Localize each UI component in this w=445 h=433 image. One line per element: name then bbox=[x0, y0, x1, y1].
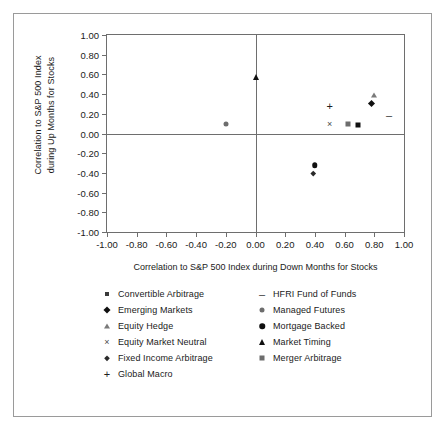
diamond-small-marker-icon bbox=[311, 171, 316, 176]
x-tick bbox=[256, 232, 257, 237]
y-axis-title-line-1: Correlation to S&P 500 Index bbox=[32, 20, 45, 210]
y-tick bbox=[102, 134, 107, 135]
x-tick bbox=[315, 232, 316, 237]
x-tick-label: -0.20 bbox=[215, 239, 237, 250]
y-tick-label: 1.00 bbox=[81, 30, 100, 41]
y-tick-label: 0.00 bbox=[81, 128, 100, 139]
circle-black-legend-icon bbox=[255, 319, 269, 333]
y-tick-label: -1.00 bbox=[77, 227, 99, 238]
x-tick-label: 0.60 bbox=[335, 239, 354, 250]
square-small-legend-icon bbox=[100, 287, 114, 301]
data-point bbox=[345, 121, 350, 126]
data-point bbox=[355, 122, 360, 127]
y-tick bbox=[102, 193, 107, 194]
data-point bbox=[313, 173, 317, 177]
y-tick-label: -0.80 bbox=[77, 207, 99, 218]
x-tick bbox=[374, 232, 375, 237]
data-point: × bbox=[327, 119, 332, 128]
x-tick bbox=[137, 232, 138, 237]
plot-area: 1.000.800.600.400.200.00-0.20-0.40-0.60-… bbox=[106, 34, 405, 233]
triangle-gray-marker-icon bbox=[371, 93, 377, 98]
legend-item: –HFRI Fund of Funds bbox=[255, 286, 356, 302]
y-tick-label: 0.40 bbox=[81, 89, 100, 100]
legend-item: ×Equity Market Neutral bbox=[100, 334, 213, 350]
x-tick-label: 0.80 bbox=[365, 239, 384, 250]
cross-marker-icon: × bbox=[327, 118, 332, 128]
legend-item: Equity Hedge bbox=[100, 318, 213, 334]
diamond-small-legend-icon bbox=[100, 351, 114, 365]
x-axis-title: Correlation to S&P 500 Index during Down… bbox=[106, 262, 405, 272]
x-tick-label: -1.00 bbox=[96, 239, 118, 250]
legend-item-label: Equity Hedge bbox=[118, 321, 173, 331]
legend-item-label: Fixed Income Arbitrage bbox=[118, 353, 213, 363]
legend-item: Convertible Arbitrage bbox=[100, 286, 213, 302]
x-tick bbox=[404, 232, 405, 237]
legend-item-label: Market Timing bbox=[273, 337, 331, 347]
horizontal-zero-axis bbox=[107, 134, 404, 135]
circle-gray-marker-icon bbox=[223, 121, 228, 126]
data-point bbox=[312, 162, 318, 168]
y-axis-title: Correlation to S&P 500 Index during Up M… bbox=[32, 20, 64, 210]
data-point bbox=[372, 103, 377, 108]
y-tick-label: 0.20 bbox=[81, 108, 100, 119]
x-tick-label: -0.60 bbox=[156, 239, 178, 250]
y-axis-title-line-2: during Up Months for Stocks bbox=[45, 20, 58, 210]
legend-column-right: –HFRI Fund of FundsManaged FuturesMortga… bbox=[255, 286, 356, 366]
circle-gray-legend-icon bbox=[255, 303, 269, 317]
triangle-gray-legend-icon bbox=[100, 319, 114, 333]
diamond-marker-icon bbox=[368, 100, 375, 107]
x-tick bbox=[166, 232, 167, 237]
legend-column-left: Convertible ArbitrageEmerging MarketsEqu… bbox=[100, 286, 213, 382]
data-point bbox=[371, 93, 377, 98]
y-tick-label: 0.60 bbox=[81, 69, 100, 80]
data-point: – bbox=[386, 109, 392, 120]
plus-marker-icon: + bbox=[327, 99, 333, 111]
x-tick-label: 0.40 bbox=[306, 239, 325, 250]
square-gray-marker-icon bbox=[345, 121, 350, 126]
diamond-legend-icon bbox=[100, 303, 114, 317]
legend-item: Mortgage Backed bbox=[255, 318, 356, 334]
y-tick bbox=[102, 153, 107, 154]
square-black-marker-icon bbox=[355, 122, 360, 127]
legend-item-label: Equity Market Neutral bbox=[118, 337, 207, 347]
cross-legend-icon: × bbox=[100, 335, 114, 349]
x-tick-label: 1.00 bbox=[395, 239, 414, 250]
y-tick bbox=[102, 114, 107, 115]
figure-panel: Correlation to S&P 500 Index during Up M… bbox=[13, 13, 432, 417]
legend-item-label: Merger Arbitrage bbox=[273, 353, 342, 363]
legend-item-label: Convertible Arbitrage bbox=[118, 289, 204, 299]
x-tick bbox=[345, 232, 346, 237]
chart-legend: Convertible ArbitrageEmerging MarketsEqu… bbox=[14, 286, 433, 406]
dash-legend-icon: – bbox=[255, 287, 269, 301]
scatter-chart: Correlation to S&P 500 Index during Up M… bbox=[14, 14, 433, 279]
legend-item-label: Emerging Markets bbox=[118, 305, 193, 315]
legend-item-label: HFRI Fund of Funds bbox=[273, 289, 356, 299]
legend-item-label: Managed Futures bbox=[273, 305, 345, 315]
x-tick-label: -0.40 bbox=[185, 239, 207, 250]
y-tick bbox=[102, 35, 107, 36]
y-tick-label: -0.40 bbox=[77, 167, 99, 178]
triangle-legend-icon bbox=[255, 335, 269, 349]
legend-item: Fixed Income Arbitrage bbox=[100, 350, 213, 366]
square-gray-legend-icon bbox=[255, 351, 269, 365]
y-tick bbox=[102, 94, 107, 95]
y-tick bbox=[102, 55, 107, 56]
legend-item: Managed Futures bbox=[255, 302, 356, 318]
y-tick-label: -0.20 bbox=[77, 148, 99, 159]
x-tick bbox=[285, 232, 286, 237]
x-tick bbox=[107, 232, 108, 237]
legend-item-label: Mortgage Backed bbox=[273, 321, 345, 331]
x-tick-label: 0.00 bbox=[246, 239, 265, 250]
y-tick-label: -0.60 bbox=[77, 187, 99, 198]
dash-marker-icon: – bbox=[386, 108, 392, 120]
y-tick bbox=[102, 212, 107, 213]
x-tick bbox=[196, 232, 197, 237]
x-tick-label: -0.80 bbox=[126, 239, 148, 250]
x-tick bbox=[226, 232, 227, 237]
data-point: + bbox=[327, 100, 333, 111]
y-tick-label: 0.80 bbox=[81, 49, 100, 60]
data-point bbox=[253, 74, 259, 80]
y-tick bbox=[102, 74, 107, 75]
legend-item: Emerging Markets bbox=[100, 302, 213, 318]
y-tick bbox=[102, 173, 107, 174]
